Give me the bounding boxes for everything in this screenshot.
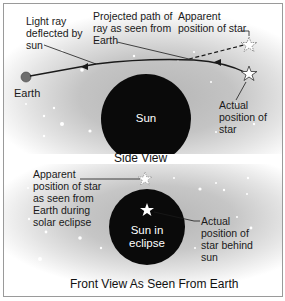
- label-line: Sun in: [117, 224, 177, 237]
- label-line: as seen from: [33, 192, 101, 204]
- diagram-frame: Light ray deflected by sun Projected pat…: [3, 3, 283, 297]
- label-line: sun: [26, 39, 83, 51]
- side-view-panel: Light ray deflected by sun Projected pat…: [4, 4, 282, 154]
- label-line: Apparent: [33, 168, 101, 180]
- label-line: Earth during: [33, 204, 101, 216]
- label-line: Actual: [201, 215, 253, 227]
- projected-path-label: Projected path of ray as seen from Earth: [93, 10, 172, 46]
- actual-position-behind-sun-label: Actual position of star behind sun: [201, 215, 253, 263]
- label-line: star: [219, 123, 267, 135]
- label-line: Earth: [93, 34, 172, 46]
- sun-label: Sun: [116, 112, 176, 125]
- light-ray-label: Light ray deflected by sun: [26, 15, 83, 51]
- label-line: position of star: [178, 22, 246, 34]
- label-line: Projected path of: [93, 10, 172, 22]
- leader-line: [236, 82, 246, 100]
- label-line: Actual: [219, 99, 267, 111]
- arrowhead-icon: [214, 59, 221, 66]
- label-line: solar eclipse: [33, 216, 101, 228]
- front-view-panel: Apparent position of star as seen from E…: [4, 164, 282, 284]
- apparent-star-icon: [138, 172, 152, 185]
- label-line: eclipse: [117, 237, 177, 250]
- label-line: Apparent: [178, 10, 246, 22]
- label-line: Light ray: [26, 15, 83, 27]
- label-line: position of star: [33, 180, 101, 192]
- apparent-star-icon: [241, 37, 257, 52]
- sun-in-eclipse-label: Sun in eclipse: [117, 224, 177, 250]
- apparent-position-eclipse-label: Apparent position of star as seen from E…: [33, 168, 101, 228]
- side-view-caption: Side View: [114, 151, 167, 165]
- actual-star-icon: [241, 66, 257, 81]
- apparent-position-label: Apparent position of star: [178, 10, 246, 34]
- actual-position-label: Actual position of star: [219, 99, 267, 135]
- label-line: position of: [201, 227, 253, 239]
- label-line: star behind: [201, 239, 253, 251]
- label-line: deflected by: [26, 27, 83, 39]
- front-view-caption: Front View As Seen From Earth: [70, 277, 239, 291]
- label-line: ray as seen from: [93, 22, 172, 34]
- label-line: sun: [201, 251, 253, 263]
- projected-path: [189, 44, 248, 59]
- label-line: position of: [219, 111, 267, 123]
- earth: [21, 72, 31, 82]
- earth-label: Earth: [14, 87, 40, 99]
